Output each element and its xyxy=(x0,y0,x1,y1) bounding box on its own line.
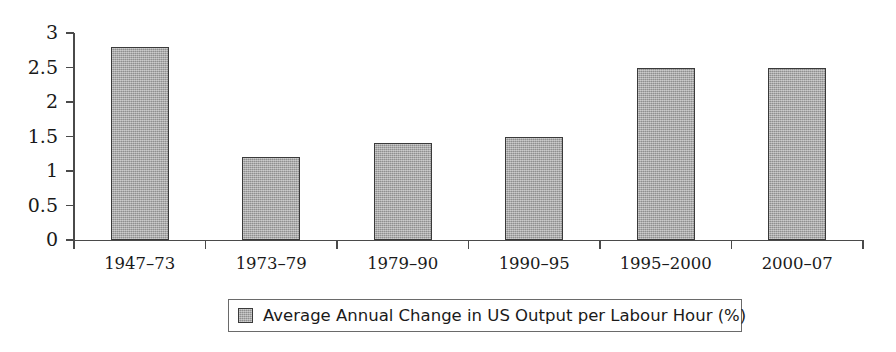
x-axis-end-tick xyxy=(862,240,864,249)
bar xyxy=(768,68,826,241)
x-axis-tick xyxy=(468,240,470,249)
y-axis-tick xyxy=(66,101,74,103)
x-axis-tick xyxy=(205,240,207,249)
x-axis-tick-label: 2000–07 xyxy=(732,255,864,273)
y-axis-tick xyxy=(66,205,74,207)
y-axis-tick xyxy=(66,170,74,172)
x-axis-tick xyxy=(599,240,601,249)
y-axis-tick xyxy=(66,136,74,138)
y-axis-tick-label: 2 xyxy=(0,92,58,111)
x-axis-tick-label: 1979–90 xyxy=(337,255,469,273)
y-axis-tick-label: 1 xyxy=(0,161,58,180)
legend-label: Average Annual Change in US Output per L… xyxy=(263,306,746,325)
bar xyxy=(505,137,563,241)
y-axis-tick-label: 1.5 xyxy=(0,127,58,146)
bar xyxy=(637,68,695,241)
y-axis-tick-label: 2.5 xyxy=(0,58,58,77)
bar-chart: 32.521.510.50 1947–731973–791979–901990–… xyxy=(0,0,896,352)
x-axis-tick-label: 1947–73 xyxy=(74,255,206,273)
chart-legend: Average Annual Change in US Output per L… xyxy=(228,299,742,332)
y-axis-tick xyxy=(66,67,74,69)
bar xyxy=(242,157,300,240)
y-axis-tick-label: 0.5 xyxy=(0,196,58,215)
y-axis-tick xyxy=(66,32,74,34)
x-axis-tick xyxy=(336,240,338,249)
x-axis-tick xyxy=(731,240,733,249)
y-axis-tick-label: 3 xyxy=(0,23,58,42)
series-color-swatch xyxy=(238,308,253,323)
x-axis-tick-label: 1990–95 xyxy=(469,255,601,273)
x-axis-tick xyxy=(73,240,75,249)
bar xyxy=(374,143,432,240)
bar xyxy=(111,47,169,240)
x-axis-tick-label: 1973–79 xyxy=(206,255,338,273)
y-axis-tick-label: 0 xyxy=(0,230,58,249)
x-axis-tick-label: 1995–2000 xyxy=(600,255,732,273)
